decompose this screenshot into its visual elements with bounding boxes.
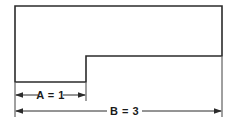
drawing-canvas: A = 1 B = 3 <box>0 0 237 123</box>
dimension-b-group: B = 3 <box>15 105 222 117</box>
dimension-a-group: A = 1 <box>15 89 86 101</box>
dimension-a-arrowhead-right-icon <box>78 92 86 98</box>
dimension-a-arrowhead-left-icon <box>15 92 23 98</box>
dimension-drawing-svg: A = 1 B = 3 <box>0 0 237 123</box>
dimension-b-arrowhead-left-icon <box>15 108 23 114</box>
dimension-b-label: B = 3 <box>110 105 139 117</box>
dimension-b-arrowhead-right-icon <box>214 108 222 114</box>
dimension-a-label: A = 1 <box>36 89 65 101</box>
stepped-rectangle-shape <box>15 6 222 82</box>
